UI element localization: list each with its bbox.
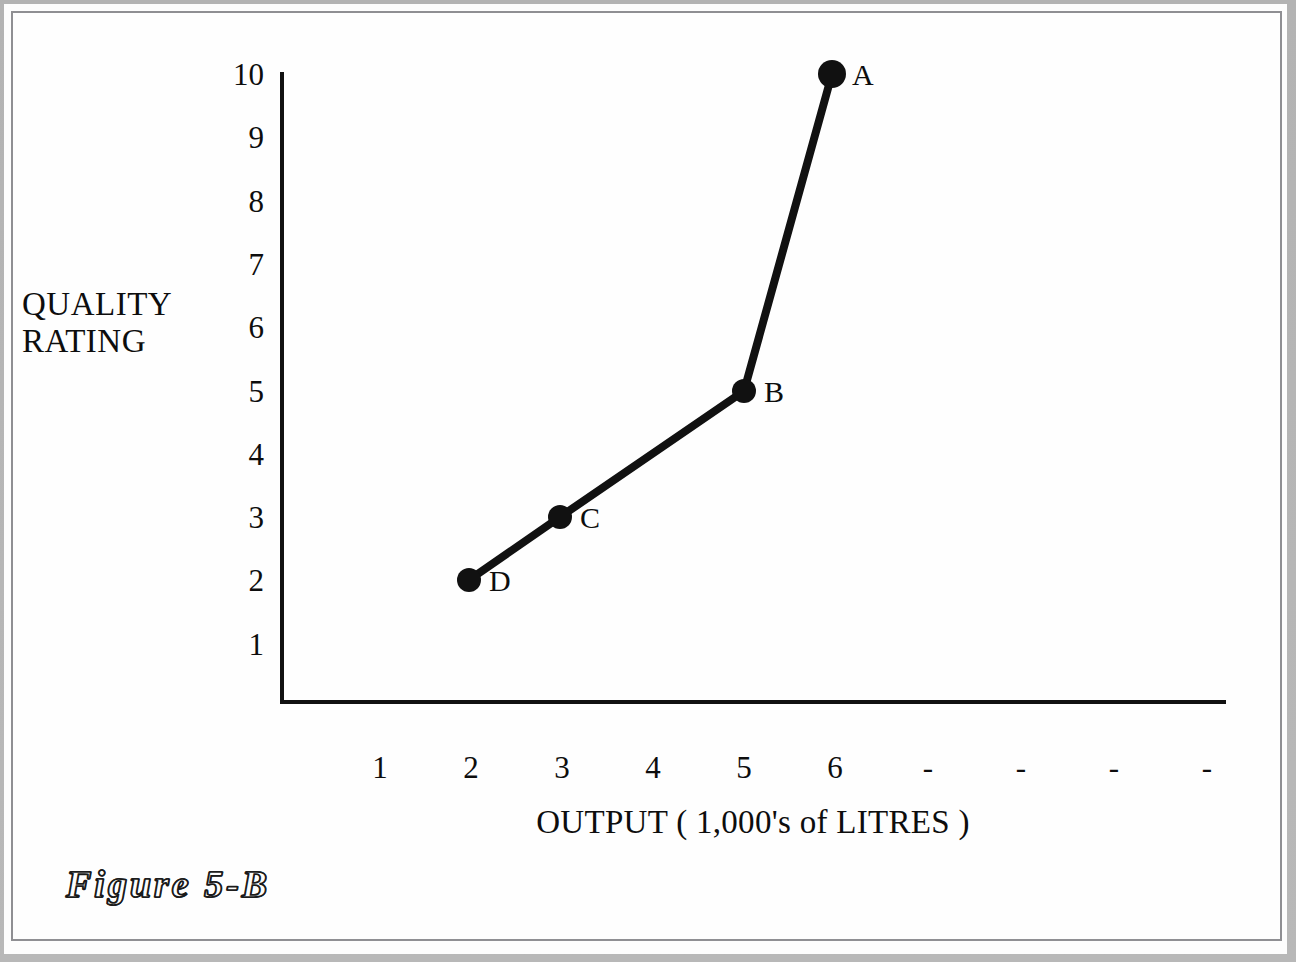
y-tick-9: 9 <box>194 122 264 153</box>
x-axis-title: OUTPUT ( 1,000's of LITRES ) <box>280 804 1226 841</box>
x-tick-5: 5 <box>714 752 774 783</box>
paper-sheet: 10 9 8 7 6 5 4 3 2 1 1 2 3 4 5 6 - - <box>4 4 1287 954</box>
x-tick-10-dash: - <box>1177 752 1237 783</box>
x-axis-tick-labels: 1 2 3 4 5 6 - - - - <box>4 752 1296 798</box>
y-tick-5: 5 <box>194 376 264 407</box>
data-point-label-d: D <box>489 566 511 596</box>
data-point-label-a: A <box>852 60 874 90</box>
y-tick-6: 6 <box>194 312 264 343</box>
x-tick-2: 2 <box>441 752 501 783</box>
y-tick-7: 7 <box>194 249 264 280</box>
y-tick-4: 4 <box>194 439 264 470</box>
x-tick-1: 1 <box>350 752 410 783</box>
x-tick-9-dash: - <box>1084 752 1144 783</box>
y-tick-10: 10 <box>194 59 264 90</box>
y-tick-8: 8 <box>194 186 264 217</box>
y-axis-title: QUALITY RATING <box>22 286 172 360</box>
y-axis-line <box>280 72 284 704</box>
figure-caption: Figure 5-B <box>66 862 270 906</box>
x-tick-7-dash: - <box>898 752 958 783</box>
scan-background: 10 9 8 7 6 5 4 3 2 1 1 2 3 4 5 6 - - <box>0 0 1296 962</box>
data-point-label-b: B <box>764 377 784 407</box>
x-tick-6: 6 <box>805 752 865 783</box>
x-axis-line <box>280 700 1226 704</box>
y-axis-tick-labels: 10 9 8 7 6 5 4 3 2 1 <box>184 4 264 962</box>
x-tick-8-dash: - <box>991 752 1051 783</box>
y-tick-3: 3 <box>194 502 264 533</box>
x-tick-3: 3 <box>532 752 592 783</box>
data-point-label-c: C <box>580 503 600 533</box>
chart-plot-area: 10 9 8 7 6 5 4 3 2 1 1 2 3 4 5 6 - - <box>4 4 1296 962</box>
x-tick-4: 4 <box>623 752 683 783</box>
y-tick-2: 2 <box>194 565 264 596</box>
y-tick-1: 1 <box>194 629 264 660</box>
